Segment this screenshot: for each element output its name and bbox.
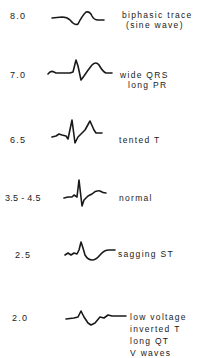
description-line: low voltage	[130, 311, 187, 323]
value-label: 3.5 - 4.5	[5, 193, 41, 203]
value-label: 8.0	[10, 11, 26, 21]
description-line: tented T	[119, 135, 160, 145]
description-line: long QT	[130, 335, 187, 347]
value-label: 7.0	[10, 70, 26, 80]
tented-t-trace-icon	[50, 117, 110, 147]
description: biphasic trace (sine wave)	[122, 10, 193, 30]
description-line: sagging ST	[118, 249, 174, 259]
sagging-st-trace-icon	[63, 240, 119, 266]
description: sagging ST	[118, 249, 174, 259]
description: wide QRS long PR	[120, 70, 169, 90]
description: low voltage inverted T long QT V waves	[130, 311, 187, 358]
description-line: normal	[119, 193, 153, 203]
value-label: 2.0	[12, 313, 28, 323]
description-line: V waves	[130, 347, 187, 358]
wide-qrs-trace-icon	[46, 56, 116, 84]
low-voltage-trace-icon	[64, 307, 130, 329]
normal-ecg-trace-icon	[62, 178, 112, 210]
description-line: inverted T	[130, 323, 187, 335]
description-line: (sine wave)	[122, 20, 193, 30]
value-label: 6.5	[10, 135, 26, 145]
description-line: wide QRS	[120, 70, 169, 80]
description: tented T	[119, 135, 160, 145]
value-label: 2.5	[15, 250, 31, 260]
description-line: biphasic trace	[122, 10, 193, 20]
description: normal	[119, 193, 153, 203]
biphasic-sine-wave-trace-icon	[50, 6, 110, 30]
description-line: long PR	[120, 80, 169, 90]
